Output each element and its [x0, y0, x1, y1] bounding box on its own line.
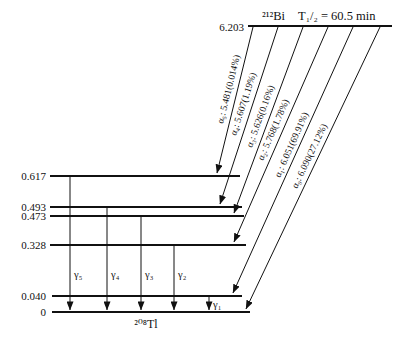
parent-halflife-label: T₁/₂ = 60.5 min: [298, 9, 376, 23]
level-energy-label-0040: 0.040: [21, 290, 46, 302]
gamma-label-g4: γ₄: [110, 269, 120, 280]
decay-scheme-page: ²¹²Bi T₁/₂ = 60.5 min 6.203 0.617 0.493 …: [0, 0, 398, 338]
gamma-label-g2: γ₂: [177, 269, 187, 280]
level-energy-label-0328: 0.328: [21, 239, 46, 251]
parent-isotope-label: ²¹²Bi: [262, 9, 286, 23]
level-energy-label-ground: 0: [41, 306, 47, 318]
gamma-label-g3: γ₃: [144, 269, 154, 280]
gamma-label-g5: γ₅: [73, 269, 83, 280]
level-energy-label-0473: 0.473: [21, 210, 46, 222]
gamma-label-g1: γ₁: [212, 299, 221, 310]
decay-scheme-diagram: ²¹²Bi T₁/₂ = 60.5 min 6.203 0.617 0.493 …: [0, 0, 398, 338]
parent-energy-label: 6.203: [219, 21, 244, 33]
daughter-isotope-label: ²⁰⁸Tl: [134, 317, 158, 331]
alpha-arrow-a1: [233, 27, 353, 293]
alpha-arrow-a4: [220, 27, 278, 204]
level-energy-label-0617: 0.617: [21, 170, 46, 182]
